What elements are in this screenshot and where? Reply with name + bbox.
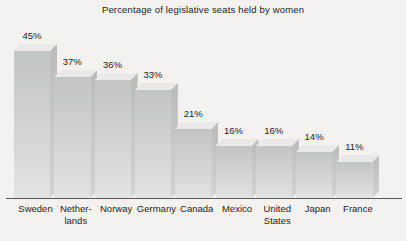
bar[interactable]: [216, 139, 259, 198]
x-axis-line: [6, 198, 402, 199]
bar-top-face: [216, 139, 259, 146]
bar[interactable]: [135, 83, 178, 198]
bar-front-face: [54, 77, 90, 198]
x-axis-category-label-line: States: [253, 215, 302, 227]
bar[interactable]: [256, 139, 299, 198]
bar-front-face: [135, 90, 171, 198]
bar[interactable]: [336, 155, 379, 198]
bar-chart: Percentage of legislative seats held by …: [0, 0, 406, 241]
bar-top-face: [336, 155, 379, 162]
bar-value-label: 11%: [336, 141, 372, 152]
x-axis-category-label-line: France: [333, 203, 382, 215]
x-axis-category-label-line: lands: [51, 215, 100, 227]
chart-title: Percentage of legislative seats held by …: [0, 4, 406, 16]
bar-top-face: [296, 145, 339, 152]
bar-top-face: [256, 139, 299, 146]
bar-top-face: [175, 122, 218, 129]
bar-front-face: [14, 51, 50, 198]
bar-group: 36%: [95, 18, 138, 198]
bar-front-face: [216, 146, 252, 198]
bar-value-label: 33%: [135, 69, 171, 80]
bar-value-label: 16%: [216, 125, 252, 136]
bar-group: 21%: [175, 18, 218, 198]
x-axis-category-label: France: [333, 203, 382, 215]
bar[interactable]: [54, 70, 97, 198]
bar-group: 14%: [296, 18, 339, 198]
bar[interactable]: [14, 44, 57, 198]
bar[interactable]: [175, 122, 218, 198]
bar-value-label: 21%: [175, 108, 211, 119]
bar-group: 16%: [256, 18, 299, 198]
bar-front-face: [95, 80, 131, 198]
bar[interactable]: [296, 145, 339, 198]
bar-top-face: [14, 44, 57, 51]
bar-top-face: [95, 73, 138, 80]
bar-value-label: 16%: [256, 125, 292, 136]
plot-area: 45%37%36%33%21%16%16%14%11%: [0, 18, 406, 199]
bar-value-label: 14%: [296, 131, 332, 142]
bar-group: 33%: [135, 18, 178, 198]
bar-front-face: [296, 152, 332, 198]
bar-group: 37%: [54, 18, 97, 198]
bar-side-face: [372, 155, 379, 198]
bar-group: 16%: [216, 18, 259, 198]
bar-value-label: 45%: [14, 30, 50, 41]
bar-group: 11%: [336, 18, 379, 198]
bar-front-face: [336, 162, 372, 198]
bar-value-label: 36%: [95, 59, 131, 70]
bar-front-face: [175, 129, 211, 198]
bar-value-label: 37%: [54, 56, 90, 67]
bar[interactable]: [95, 73, 138, 198]
bar-top-face: [54, 70, 97, 77]
bar-front-face: [256, 146, 292, 198]
bar-top-face: [135, 83, 178, 90]
bar-group: 45%: [14, 18, 57, 198]
